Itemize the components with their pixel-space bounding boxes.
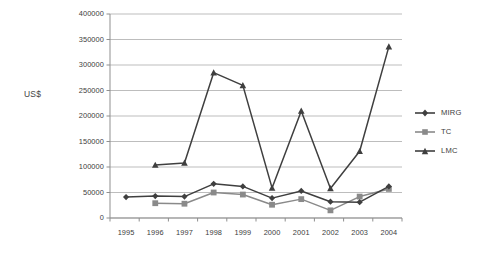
data-point-triangle: [386, 43, 393, 49]
y-tick-label: 250000: [62, 86, 104, 95]
data-point-diamond: [240, 183, 246, 189]
data-point-triangle: [269, 185, 276, 191]
data-point-square: [211, 190, 217, 196]
legend-marker-square-icon: [414, 127, 436, 137]
legend-label-tc: TC: [441, 127, 452, 137]
y-axis-title: US$: [24, 89, 41, 99]
data-point-square: [240, 192, 246, 198]
legend-label-mirg: MIRG: [441, 108, 462, 118]
y-tick-label: 100000: [62, 162, 104, 171]
data-point-diamond: [327, 199, 333, 205]
y-tick-label: 350000: [62, 35, 104, 44]
data-point-diamond: [269, 195, 275, 201]
data-point-square: [328, 207, 334, 213]
x-tick-label: 2004: [372, 228, 406, 237]
legend-label-lmc: LMC: [441, 146, 458, 156]
data-point-diamond: [298, 188, 304, 194]
data-point-square: [269, 202, 275, 208]
data-point-diamond: [123, 194, 129, 200]
data-point-diamond: [152, 193, 158, 199]
data-point-square: [182, 201, 188, 207]
chart-legend: MIRG TC LMC: [414, 103, 480, 160]
legend-item-mirg[interactable]: MIRG: [414, 103, 480, 122]
data-point-square: [152, 200, 158, 206]
legend-marker-triangle-icon: [414, 146, 436, 156]
data-point-square: [357, 194, 363, 200]
data-point-diamond: [357, 199, 363, 205]
legend-marker-diamond-icon: [414, 108, 436, 118]
data-point-triangle: [298, 108, 305, 114]
line-chart: US$ 050000100000150000200000250000300000…: [0, 0, 481, 253]
y-tick-label: 50000: [62, 188, 104, 197]
data-point-triangle: [210, 69, 217, 75]
y-tick-label: 0: [62, 213, 104, 222]
data-point-triangle: [356, 148, 363, 154]
data-point-diamond: [211, 181, 217, 187]
legend-item-lmc[interactable]: LMC: [414, 141, 480, 160]
y-tick-label: 200000: [62, 111, 104, 120]
data-point-square: [298, 196, 304, 202]
data-point-diamond: [181, 193, 187, 199]
y-tick-label: 300000: [62, 60, 104, 69]
y-tick-label: 400000: [62, 9, 104, 18]
y-tick-label: 150000: [62, 137, 104, 146]
legend-item-tc[interactable]: TC: [414, 122, 480, 141]
